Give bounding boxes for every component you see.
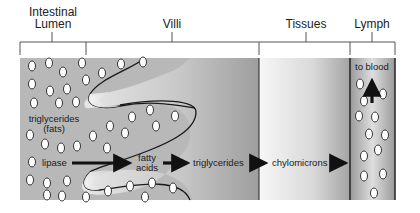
- label-villi: Villi: [152, 18, 192, 30]
- text-triglycerides: triglycerides: [193, 158, 244, 168]
- text-fatty-acids: fatty acids: [134, 153, 160, 173]
- text-triglycerides-fats: triglycerides (fats): [22, 114, 86, 134]
- text-lipase: lipase: [42, 158, 67, 168]
- text-chylomicrons: chylomicrons: [272, 158, 327, 168]
- lymph-vessel: [350, 58, 395, 200]
- label-tissues: Tissues: [283, 18, 329, 30]
- text-to-blood: to blood: [355, 62, 389, 72]
- label-intestinal-lumen: Intestinal Lumen: [18, 6, 88, 30]
- tissues-region: [259, 58, 350, 200]
- diagram-canvas: [0, 0, 420, 213]
- region-brackets: [20, 32, 395, 55]
- label-lymph: Lymph: [352, 18, 392, 30]
